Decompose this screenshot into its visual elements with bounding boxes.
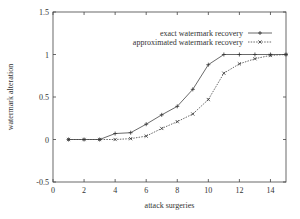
y-tick-label: 1 [45, 51, 49, 60]
x-tick-label: 0 [51, 186, 55, 195]
y-tick-label: -0.5 [36, 178, 49, 187]
x-tick-label: 10 [204, 186, 212, 195]
legend-label-exact: exact watermark recovery [160, 29, 243, 38]
x-tick-label: 12 [235, 186, 243, 195]
line-chart: 02468101214 -0.500.511.5 attack surgerie… [0, 0, 300, 219]
x-tick-label: 4 [113, 186, 117, 195]
x-tick-label: 2 [82, 186, 86, 195]
legend-label-approximated: approximated watermark recovery [133, 38, 243, 47]
y-tick-label: 1.5 [39, 8, 49, 17]
data-series [67, 53, 288, 142]
series-approximated [67, 53, 288, 141]
x-tick-label: 14 [266, 186, 274, 195]
x-tick-label: 8 [175, 186, 179, 195]
x-axis-label: attack surgeries [145, 201, 195, 210]
y-axis-label: watermark alteration [6, 64, 15, 130]
y-tick-label: 0 [45, 136, 49, 145]
legend: exact watermark recovery approximated wa… [133, 29, 272, 47]
y-tick-label: 0.5 [39, 93, 49, 102]
x-tick-label: 6 [144, 186, 148, 195]
series-exact [67, 53, 288, 142]
